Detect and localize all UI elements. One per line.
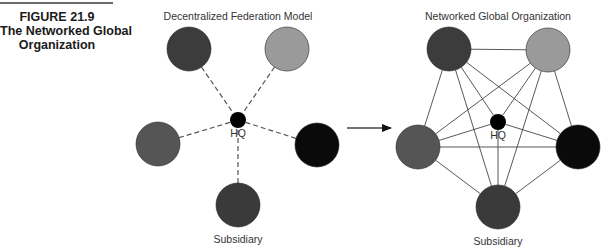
right-subsidiary-node-top-left (427, 27, 471, 71)
right-link-mid-left-bottom (436, 160, 481, 194)
right-diagram-title: Networked Global Organization (425, 10, 571, 22)
right-subsidiary-node-mid-left (396, 125, 440, 169)
left-hq-node (230, 112, 246, 128)
right-hq-label: HQ (490, 129, 506, 141)
right-link-top-right-mid-right (555, 71, 572, 126)
left-link-mid-right (246, 122, 296, 138)
left-subsidiary-node-bottom (216, 183, 260, 227)
right-link-top-left-mid-right (467, 62, 561, 133)
right-link-hq-top-left (461, 67, 493, 115)
left-subsidiary-node-top-left (167, 27, 211, 71)
right-subsidiary-label: Subsidiary (473, 235, 523, 247)
right-subsidiary-node-mid-right (556, 125, 600, 169)
networked-global-diagram: Networked Global Organization HQ Subsidi… (396, 10, 600, 247)
left-link-mid-left (179, 122, 230, 137)
right-subsidiary-node-bottom (476, 185, 520, 229)
right-link-hq-mid-right (506, 124, 557, 140)
right-link-top-left-mid-left (425, 70, 443, 126)
right-link-hq-mid-left (439, 124, 490, 140)
right-link-top-left-bottom (456, 70, 492, 186)
left-subsidiary-label: Subsidiary (213, 233, 263, 245)
left-subsidiary-node-mid-left (136, 122, 180, 166)
right-link-top-right-mid-left (436, 63, 531, 134)
right-link-top-right-bottom (505, 71, 542, 186)
right-nodes (396, 27, 600, 229)
right-link-hq-top-right (503, 68, 536, 115)
left-link-top-left (201, 67, 233, 113)
left-subsidiary-node-top-right (265, 27, 309, 71)
diagram-canvas: Decentralized Federation Model HQ Subsid… (0, 0, 609, 252)
right-link-top-left-top-right (471, 49, 526, 50)
right-subsidiary-node-top-right (526, 28, 570, 72)
left-hq-label: HQ (230, 127, 246, 139)
right-hq-node (490, 114, 506, 130)
right-link-mid-right-bottom (516, 160, 561, 194)
left-subsidiary-node-mid-right (295, 123, 339, 167)
left-link-top-right (243, 67, 275, 113)
decentralized-federation-diagram: Decentralized Federation Model HQ Subsid… (136, 10, 339, 245)
left-diagram-title: Decentralized Federation Model (164, 10, 313, 22)
